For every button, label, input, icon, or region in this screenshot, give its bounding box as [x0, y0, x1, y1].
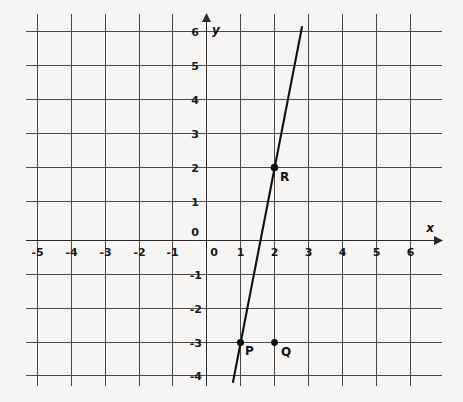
x-tick-4: 4	[339, 246, 347, 259]
x-tick--4: -4	[65, 246, 78, 259]
x-tick-2: 2	[271, 246, 279, 259]
y-tick--3: -3	[190, 337, 202, 350]
y-tick-1: 1	[191, 196, 199, 209]
point-label-Q: Q	[281, 345, 291, 359]
point-label-R: R	[280, 170, 289, 184]
x-tick-1: 1	[237, 246, 245, 259]
y-tick-0: 0	[191, 226, 199, 239]
point-label-P: P	[245, 344, 254, 358]
y-tick--2: -2	[190, 303, 202, 316]
y-tick-6: 6	[191, 26, 199, 39]
y-tick-3: 3	[191, 128, 199, 141]
point-marker-Q	[271, 339, 278, 346]
x-tick--2: -2	[133, 246, 145, 259]
x-tick-3: 3	[305, 246, 313, 259]
y-tick-2: 2	[191, 162, 199, 175]
x-axis-label: x	[425, 221, 435, 235]
y-axis-label: y	[212, 23, 221, 37]
coordinate-plane-chart: x y -5 -4 -3 -2 -1 0 1 2 3 4 5 6 6 5 4 3…	[0, 0, 463, 402]
point-marker-R	[271, 164, 279, 172]
y-tick-5: 5	[191, 60, 199, 73]
graph-page: x y -5 -4 -3 -2 -1 0 1 2 3 4 5 6 6 5 4 3…	[0, 0, 463, 402]
y-tick--4: -4	[190, 370, 203, 383]
x-tick-0: 0	[210, 246, 218, 259]
x-tick-5: 5	[373, 246, 381, 259]
x-tick--1: -1	[166, 246, 178, 259]
y-tick-4: 4	[191, 94, 199, 107]
y-tick--1: -1	[190, 269, 202, 282]
point-marker-P	[237, 339, 244, 346]
x-tick--5: -5	[31, 246, 43, 259]
x-tick--3: -3	[99, 246, 111, 259]
x-tick-6: 6	[407, 246, 415, 259]
